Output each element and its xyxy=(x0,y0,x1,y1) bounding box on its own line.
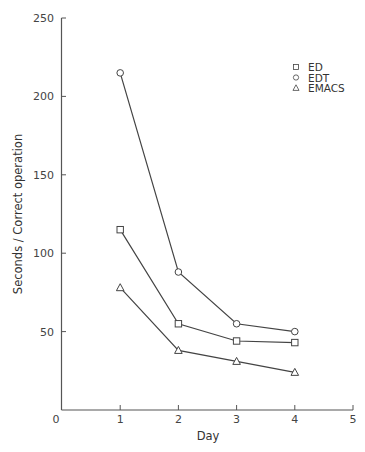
square-marker-icon xyxy=(293,64,298,69)
series-line xyxy=(120,230,295,343)
x-tick-label: 3 xyxy=(233,413,240,426)
x-tick-label: 0 xyxy=(53,413,60,426)
x-tick-label: 5 xyxy=(350,413,357,426)
circle-marker-icon xyxy=(117,70,124,77)
y-tick-label: 250 xyxy=(33,12,54,25)
series-edt xyxy=(117,70,298,335)
line-chart: 50100150200250 012345 Day Seconds / Corr… xyxy=(0,0,365,452)
legend-item-emacs: EMACS xyxy=(293,82,345,94)
series-group xyxy=(116,70,298,376)
y-tick-label: 50 xyxy=(40,326,54,339)
series-line xyxy=(120,288,295,373)
y-axis-title: Seconds / Correct operation xyxy=(11,134,25,294)
triangle-marker-icon xyxy=(293,85,299,91)
series-line xyxy=(120,73,295,332)
square-marker-icon xyxy=(175,321,181,327)
x-ticks: 012345 xyxy=(53,405,357,426)
x-tick-label: 4 xyxy=(291,413,298,426)
circle-marker-icon xyxy=(293,75,298,80)
y-tick-label: 200 xyxy=(33,90,54,103)
circle-marker-icon xyxy=(175,269,182,276)
square-marker-icon xyxy=(233,338,239,344)
circle-marker-icon xyxy=(233,320,240,327)
y-tick-label: 100 xyxy=(33,247,54,260)
square-marker-icon xyxy=(117,226,123,232)
circle-marker-icon xyxy=(292,328,299,335)
x-axis-title: Day xyxy=(197,429,220,443)
y-tick-label: 150 xyxy=(33,169,54,182)
legend-label: EMACS xyxy=(308,82,345,94)
triangle-marker-icon xyxy=(116,284,124,291)
x-tick-label: 2 xyxy=(175,413,182,426)
x-tick-label: 1 xyxy=(117,413,124,426)
legend: EDEDTEMACS xyxy=(293,61,345,94)
square-marker-icon xyxy=(292,339,298,345)
